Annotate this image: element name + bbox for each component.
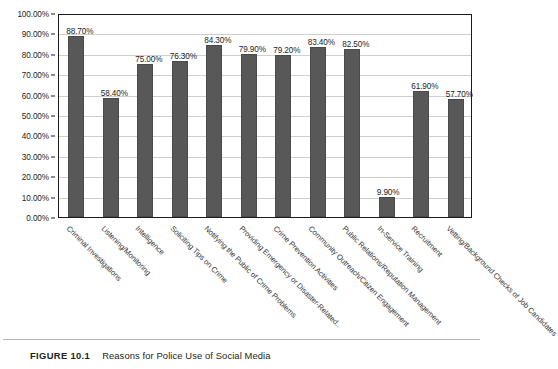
y-axis: 0.00%10.00%20.00%30.00%40.00%50.00%60.00… <box>0 14 55 218</box>
chart-gridline <box>59 75 471 76</box>
chart-gridline <box>59 55 471 56</box>
bar <box>448 99 464 217</box>
chart-gridline <box>59 136 471 137</box>
y-axis-tick-mark <box>51 75 55 76</box>
y-axis-tick-mark <box>51 136 55 137</box>
x-axis-tick-label: Crime Prevention Activities <box>272 224 340 292</box>
y-axis-tick-label: 10.00% <box>22 193 49 202</box>
y-axis-tick-label: 60.00% <box>22 91 49 100</box>
bar-value-label: 57.70% <box>446 90 473 99</box>
bar <box>413 91 429 217</box>
x-axis-tick-label: Soliciting Tips on Crime <box>168 224 229 285</box>
bar-value-label: 84.30% <box>204 36 231 45</box>
caption-figure-title: Reasons for Police Use of Social Media <box>102 350 270 361</box>
bar-value-label: 88.70% <box>66 27 93 36</box>
bar-value-label: 9.90% <box>377 188 400 197</box>
y-axis-tick-mark <box>51 14 55 15</box>
bar <box>137 64 153 217</box>
bar <box>310 47 326 217</box>
bar-value-label: 76.30% <box>170 52 197 61</box>
chart-gridline <box>59 116 471 117</box>
y-axis-tick-mark <box>51 156 55 157</box>
caption-figure-label: FIGURE 10.1 <box>30 350 90 361</box>
caption-divider <box>3 339 480 340</box>
figure-caption: FIGURE 10.1Reasons for Police Use of Soc… <box>30 350 271 361</box>
chart-gridline <box>59 157 471 158</box>
bar <box>275 55 291 217</box>
chart-gridline <box>59 34 471 35</box>
bar-value-label: 58.40% <box>101 89 128 98</box>
y-axis-tick-mark <box>51 34 55 35</box>
bar-value-label: 79.20% <box>273 46 300 55</box>
x-axis-tick-label: Intelligence <box>134 224 167 257</box>
chart-gridline <box>59 177 471 178</box>
bar-value-label: 83.40% <box>308 38 335 47</box>
chart-plot-area: 88.70%58.40%75.00%76.30%84.30%79.90%79.2… <box>58 14 472 218</box>
bar <box>103 98 119 217</box>
bar-value-label: 82.50% <box>342 40 369 49</box>
y-axis-tick-mark <box>51 54 55 55</box>
x-axis-tick-label: Vetting/Background Checks of Job Candida… <box>444 224 558 338</box>
bar <box>68 36 84 217</box>
y-axis-tick-label: 80.00% <box>22 50 49 59</box>
bar <box>172 61 188 217</box>
y-axis-tick-label: 20.00% <box>22 173 49 182</box>
y-axis-tick-label: 90.00% <box>22 30 49 39</box>
y-axis-tick-mark <box>51 95 55 96</box>
x-axis-tick-label: Recruitment <box>410 224 445 259</box>
y-axis-tick-label: 40.00% <box>22 132 49 141</box>
bar <box>344 49 360 217</box>
bar <box>206 45 222 217</box>
x-axis: Criminal InvestigationsListening/Monitor… <box>0 218 483 338</box>
y-axis-tick-mark <box>51 197 55 198</box>
bar-value-label: 61.90% <box>411 82 438 91</box>
y-axis-tick-mark <box>51 177 55 178</box>
y-axis-tick-label: 70.00% <box>22 71 49 80</box>
chart-gridline <box>59 198 471 199</box>
y-axis-tick-mark <box>51 116 55 117</box>
y-axis-tick-label: 50.00% <box>22 112 49 121</box>
y-axis-tick-label: 30.00% <box>22 152 49 161</box>
bar <box>379 197 395 217</box>
bar-value-label: 79.90% <box>239 45 266 54</box>
bar-value-label: 75.00% <box>135 55 162 64</box>
y-axis-tick-label: 100.00% <box>17 10 49 19</box>
bar <box>241 54 257 217</box>
